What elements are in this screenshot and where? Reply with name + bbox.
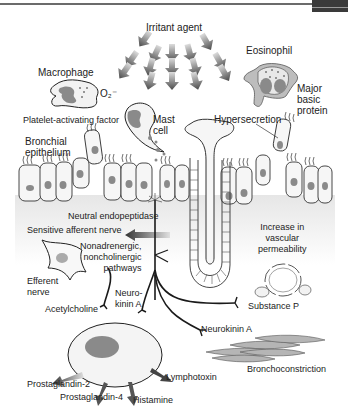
label-histamine: Histamine xyxy=(133,395,173,406)
irritant-arrows xyxy=(114,28,235,92)
label-neurokinin-a-left: Neuro-kinin A xyxy=(115,288,143,310)
label-neurokinin-a-right: Neurokinin A xyxy=(201,324,252,335)
label-platelet-activating-factor: Platelet-activating factor xyxy=(23,115,119,126)
label-nanc-pathways: Nonadrenergic,noncholinergicpathways xyxy=(80,241,142,274)
label-major-basic-protein: Majorbasicprotein xyxy=(297,83,328,116)
label-mast-cell: Mastcell xyxy=(153,114,175,136)
label-macrophage: Macrophage xyxy=(38,67,94,78)
label-eosinophil: Eosinophil xyxy=(246,45,292,56)
label-bronchoconstriction: Bronchoconstriction xyxy=(247,364,326,375)
label-lymphotoxin: Lymphotoxin xyxy=(166,372,217,383)
label-sensitive-afferent-nerve: Sensitive afferent nerve xyxy=(27,225,121,236)
label-prostaglandin-4: Prostaglandin-4 xyxy=(60,392,123,403)
smooth-muscle-bronchoconstriction xyxy=(206,335,325,362)
label-hypersecretion: Hypersecretion xyxy=(214,114,281,125)
label-bronchial-epithelium: Bronchialepithelium xyxy=(25,136,71,158)
label-acetylcholine: Acetylcholine xyxy=(45,304,98,315)
bronchial-epithelium-cells xyxy=(19,118,332,204)
label-prostaglandin-2: Prostaglandin-2 xyxy=(27,379,90,390)
label-neutral-endopeptidase: Neutral endopeptidase xyxy=(68,211,159,222)
blood-vessel xyxy=(255,264,311,297)
label-irritant-agent: Irritant agent xyxy=(146,22,202,33)
label-superoxide: O₂⁻ xyxy=(100,88,117,99)
label-increase-vascular-permeability: Increase invascularpermeability xyxy=(258,222,307,255)
eosinophil-cell xyxy=(244,64,298,107)
diagram-art xyxy=(0,0,348,419)
macrophage-cell xyxy=(51,80,98,108)
hypersecretion-pointer xyxy=(256,124,278,138)
label-substance-p: Substance P xyxy=(248,301,299,312)
label-efferent-nerve: Efferentnerve xyxy=(27,276,58,298)
